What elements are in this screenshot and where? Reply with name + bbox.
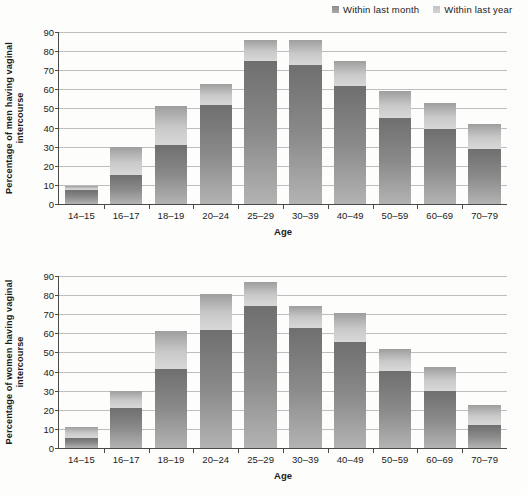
y-tick-label: 50	[43, 103, 59, 114]
bar-segment-within-last-year	[155, 331, 187, 368]
bar-segment-within-last-month	[244, 61, 276, 204]
bar-segment-within-last-year	[379, 349, 411, 371]
figure-stacked-bar-charts: Within last month Within last year Perce…	[0, 0, 527, 495]
y-tick-label: 30	[43, 385, 59, 396]
x-tick-label: 40–49	[337, 454, 364, 465]
bar-segment-within-last-year	[110, 147, 142, 176]
bar-segment-within-last-year	[155, 106, 187, 145]
bar-60-69	[424, 103, 456, 204]
y-tick-label: 90	[43, 271, 59, 282]
y-tick-label: 20	[43, 160, 59, 171]
x-tick-mark	[462, 448, 463, 453]
x-tick-mark	[238, 448, 239, 453]
bar-segment-within-last-month	[155, 369, 187, 448]
bar-25-29	[244, 40, 276, 204]
bar-16-17	[110, 147, 142, 204]
x-tick-label: 50–59	[382, 210, 409, 221]
bars-men	[59, 32, 507, 204]
bar-70-79	[468, 405, 500, 448]
x-axis-label-women: Age	[59, 470, 507, 481]
bar-segment-within-last-month	[334, 86, 366, 204]
y-tick-label: 40	[43, 366, 59, 377]
bar-segment-within-last-month	[110, 408, 142, 448]
bar-20-24	[200, 84, 232, 204]
x-tick-mark	[238, 204, 239, 209]
bar-18-19	[155, 106, 187, 204]
bar-40-49	[334, 61, 366, 204]
y-tick-label: 0	[49, 443, 59, 454]
bar-20-24	[200, 294, 232, 448]
bar-segment-within-last-year	[424, 367, 456, 391]
bar-segment-within-last-year	[200, 294, 232, 329]
x-tick-label: 20–24	[202, 454, 229, 465]
x-tick-mark	[373, 448, 374, 453]
bar-14-15	[65, 427, 97, 448]
bar-16-17	[110, 391, 142, 448]
bar-segment-within-last-month	[289, 328, 321, 448]
y-tick-label: 70	[43, 65, 59, 76]
x-tick-mark	[149, 204, 150, 209]
bar-segment-within-last-month	[65, 438, 97, 449]
bar-segment-within-last-year	[200, 84, 232, 105]
x-tick-label: 70–79	[471, 210, 498, 221]
y-tick-label: 10	[43, 179, 59, 190]
x-tick-label: 25–29	[247, 454, 274, 465]
x-tick-mark	[104, 448, 105, 453]
legend-swatch-year-icon	[433, 6, 440, 13]
bar-segment-within-last-month	[155, 145, 187, 204]
bar-segment-within-last-month	[110, 175, 142, 204]
x-tick-label: 30–39	[292, 454, 319, 465]
y-axis-label-women: Percentage of women having vaginal inter…	[4, 276, 26, 448]
bar-segment-within-last-month	[334, 342, 366, 448]
bar-segment-within-last-month	[289, 65, 321, 205]
x-tick-label: 30–39	[292, 210, 319, 221]
bar-30-39	[289, 306, 321, 448]
x-tick-label: 50–59	[382, 454, 409, 465]
bar-30-39	[289, 40, 321, 204]
x-tick-mark	[462, 204, 463, 209]
x-tick-label: 16–17	[113, 210, 140, 221]
y-tick-label: 10	[43, 423, 59, 434]
x-tick-label: 14–15	[68, 210, 95, 221]
x-tick-label: 40–49	[337, 210, 364, 221]
bar-segment-within-last-month	[424, 391, 456, 448]
bar-segment-within-last-year	[379, 91, 411, 118]
x-tick-label: 60–69	[426, 454, 453, 465]
x-tick-mark	[373, 204, 374, 209]
y-tick-label: 80	[43, 46, 59, 57]
chart-panel-women: Percentage of women having vaginal inter…	[0, 258, 527, 495]
y-tick-label: 20	[43, 404, 59, 415]
bar-segment-within-last-year	[334, 61, 366, 87]
y-tick-label: 80	[43, 290, 59, 301]
bar-segment-within-last-month	[200, 330, 232, 448]
y-tick-label: 50	[43, 347, 59, 358]
bar-segment-within-last-year	[424, 103, 456, 130]
y-tick-label: 90	[43, 27, 59, 38]
x-tick-mark	[417, 448, 418, 453]
bar-segment-within-last-year	[244, 282, 276, 306]
plot-area-women: 0102030405060708090 Age 14–1516–1718–192…	[58, 276, 507, 449]
x-tick-mark	[193, 204, 194, 209]
chart-panel-men: Percentage of men having vaginal interco…	[0, 14, 527, 262]
bar-segment-within-last-month	[424, 129, 456, 204]
x-tick-mark	[283, 204, 284, 209]
x-tick-mark	[328, 204, 329, 209]
x-tick-mark	[104, 204, 105, 209]
plot-area-men: 0102030405060708090 Age 14–1516–1718–192…	[58, 32, 507, 205]
bar-segment-within-last-month	[468, 425, 500, 448]
x-tick-label: 20–24	[202, 210, 229, 221]
y-tick-label: 40	[43, 122, 59, 133]
bar-segment-within-last-year	[289, 40, 321, 65]
bar-segment-within-last-month	[65, 190, 97, 204]
bar-40-49	[334, 313, 366, 448]
y-tick-label: 60	[43, 84, 59, 95]
y-tick-label: 60	[43, 328, 59, 339]
bar-50-59	[379, 349, 411, 448]
x-tick-label: 18–19	[158, 454, 185, 465]
bars-women	[59, 276, 507, 448]
bar-segment-within-last-year	[468, 405, 500, 425]
x-axis-women: Age 14–1516–1718–1920–2425–2930–3940–495…	[59, 448, 507, 478]
y-tick-label: 0	[49, 199, 59, 210]
x-tick-mark	[149, 448, 150, 453]
bar-14-15	[65, 186, 97, 204]
